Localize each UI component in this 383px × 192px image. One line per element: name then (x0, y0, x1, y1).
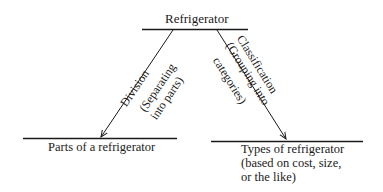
right-target-line-3: or the like) (241, 170, 296, 184)
right-target-line-2: (based on cost, size, (241, 156, 341, 170)
right-target-line-1: Types of refrigerator (241, 142, 344, 156)
left-target-label: Parts of a refrigerator (48, 140, 155, 154)
root-node-label: Refrigerator (165, 12, 229, 26)
